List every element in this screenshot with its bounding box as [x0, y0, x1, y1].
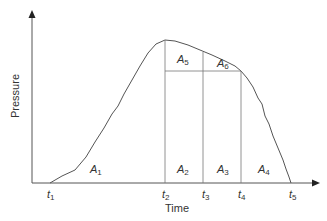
time-marker-t5: t5: [289, 189, 297, 202]
pressure-curve: [50, 40, 291, 183]
time-marker-t3: t3: [202, 189, 210, 202]
x-axis-title: Time: [165, 203, 189, 214]
area-label-a3: A3: [217, 164, 229, 177]
area-label-a1: A1: [90, 164, 102, 177]
area-label-a4: A4: [258, 164, 270, 177]
time-marker-t1: t1: [47, 189, 55, 202]
y-axis-arrow-icon: [29, 10, 36, 18]
area-label-a5: A5: [177, 54, 189, 67]
area-label-a6: A6: [217, 58, 229, 71]
time-marker-t4: t4: [238, 189, 246, 202]
time-marker-t2: t2: [162, 189, 170, 202]
x-axis-arrow-icon: [312, 180, 320, 187]
y-axis-title: Pressure: [10, 74, 21, 118]
area-label-a2: A2: [177, 164, 189, 177]
